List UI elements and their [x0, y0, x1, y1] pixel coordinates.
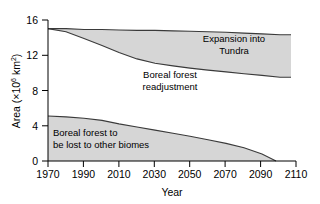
- x-axis-tick-labels: 1970 1990 2010 2030 2050 2070 2090 2110: [36, 168, 307, 180]
- annotation-readjustment-line1: Boreal forest: [143, 69, 197, 80]
- chart-figure: 16 12 8 4 0 1970 1990 2010 2030 2050 207…: [0, 0, 320, 204]
- y-axis-title: Area (×106 km2): [10, 54, 22, 129]
- annotation-expansion-line2: Tundra: [219, 45, 249, 56]
- y-tick-label-0: 0: [32, 155, 38, 167]
- annotation-readjustment-line2: readjustment: [143, 81, 198, 92]
- x-tick-label-2090: 2090: [249, 168, 273, 180]
- y-axis-ticks: [42, 20, 48, 161]
- svg-text:Area (×106 km2): Area (×106 km2): [10, 54, 22, 129]
- x-axis-ticks: [48, 161, 296, 167]
- x-tick-label-2110: 2110: [285, 168, 308, 180]
- annotation-loss-line1: Boreal forest to: [53, 127, 117, 138]
- x-tick-label-2070: 2070: [213, 168, 237, 180]
- x-axis-title: Year: [161, 186, 183, 198]
- y-axis-tick-labels: 16 12 8 4 0: [26, 14, 38, 167]
- x-tick-label-2030: 2030: [143, 168, 167, 180]
- y-tick-label-8: 8: [32, 85, 38, 97]
- x-tick-label-1970: 1970: [36, 168, 60, 180]
- y-axis-title-part1: Area (×10: [10, 82, 22, 129]
- y-tick-label-4: 4: [32, 120, 38, 132]
- area-chart-svg: 16 12 8 4 0 1970 1990 2010 2030 2050 207…: [0, 0, 320, 204]
- x-tick-label-1990: 1990: [72, 168, 96, 180]
- x-tick-label-2050: 2050: [178, 168, 202, 180]
- y-tick-label-12: 12: [26, 49, 38, 61]
- annotation-expansion-line1: Expansion into: [203, 33, 265, 44]
- y-tick-label-16: 16: [26, 14, 38, 26]
- y-axis-title-part3: ): [10, 54, 22, 58]
- annotation-boreal-forest-readjustment: Boreal forest readjustment: [143, 69, 198, 92]
- annotation-loss-line2: be lost to other biomes: [53, 139, 149, 150]
- y-axis-title-part2: km: [10, 61, 22, 78]
- x-tick-label-2010: 2010: [107, 168, 131, 180]
